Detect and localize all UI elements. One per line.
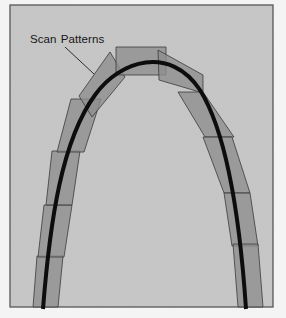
scan-pattern-diagram: ScanPatterns (0, 0, 286, 318)
diagram-canvas (0, 0, 286, 318)
scan-pattern-right-5 (233, 244, 263, 307)
label-word-2: Patterns (61, 33, 105, 45)
scan-patterns-label: ScanPatterns (30, 33, 104, 45)
label-word-1: Scan (30, 33, 57, 45)
